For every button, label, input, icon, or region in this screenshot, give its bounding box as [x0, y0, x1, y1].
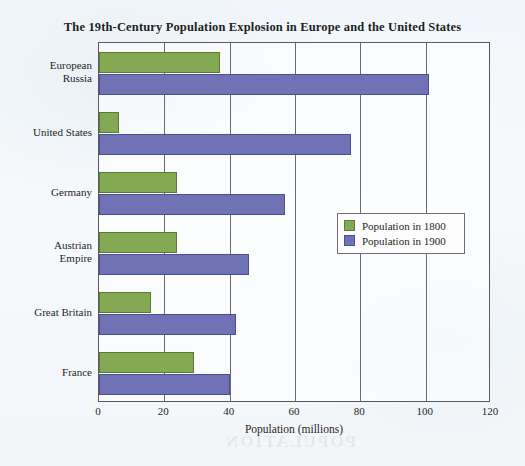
x-tick-label: 20: [158, 405, 169, 417]
x-tick-label: 100: [416, 405, 433, 417]
bar: [99, 194, 285, 215]
legend-item[interactable]: Population in 1800: [344, 218, 458, 233]
x-tick-label: 80: [354, 405, 365, 417]
bar: [99, 74, 429, 95]
gridline: [164, 43, 165, 401]
bar: [99, 292, 151, 313]
legend-label-1900: Population in 1900: [362, 235, 446, 247]
bar: [99, 134, 351, 155]
y-axis-category-labels: EuropeanRussiaUnited StatesGermanyAustri…: [0, 42, 92, 402]
chart-legend: Population in 1800 Population in 1900: [337, 213, 465, 254]
y-axis-label: France: [0, 366, 92, 379]
gridline: [230, 43, 231, 401]
bar: [99, 352, 194, 373]
y-axis-label: United States: [0, 126, 92, 139]
y-axis-label: Germany: [0, 186, 92, 199]
legend-label-1800: Population in 1800: [362, 220, 446, 232]
x-tick-label: 120: [482, 405, 499, 417]
x-axis-title: Population (millions): [98, 423, 490, 435]
bar: [99, 52, 220, 73]
y-axis-label: AustrianEmpire: [0, 239, 92, 265]
chart-title: The 19th-Century Population Explosion in…: [0, 20, 525, 35]
bar: [99, 232, 177, 253]
gridline: [295, 43, 296, 401]
y-axis-label: Great Britain: [0, 306, 92, 319]
x-tick-label: 60: [289, 405, 300, 417]
legend-swatch-1800: [344, 220, 355, 231]
bar: [99, 254, 249, 275]
y-axis-label: EuropeanRussia: [0, 59, 92, 85]
legend-item[interactable]: Population in 1900: [344, 233, 458, 248]
x-tick-label: 0: [95, 405, 101, 417]
x-tick-label: 40: [223, 405, 234, 417]
bar: [99, 112, 119, 133]
bar: [99, 314, 236, 335]
bar: [99, 172, 177, 193]
legend-swatch-1900: [344, 235, 355, 246]
x-axis-tick-labels: 020406080100120: [98, 405, 490, 421]
bar: [99, 374, 230, 395]
